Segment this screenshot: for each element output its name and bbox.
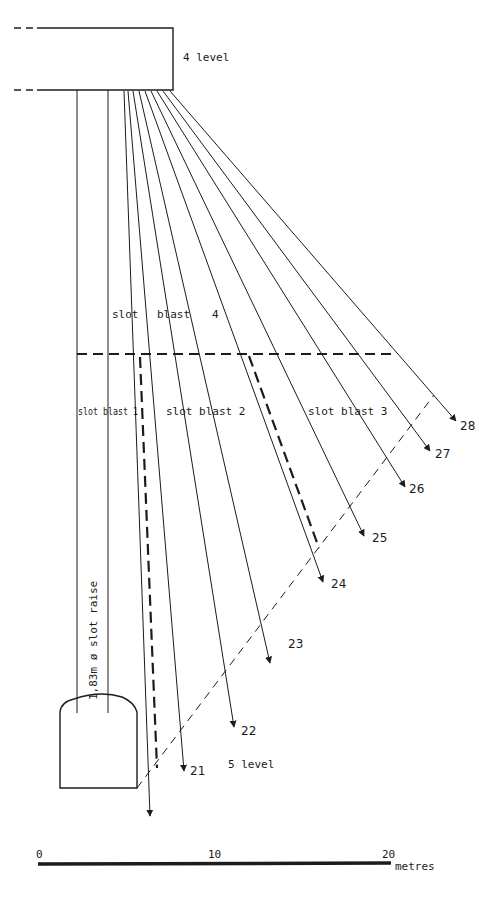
blast-hole-28 bbox=[170, 91, 456, 421]
slot-blast-4-label: slot blast 4 bbox=[112, 308, 219, 321]
blast-hole-fan bbox=[124, 91, 456, 816]
level-5-drift bbox=[60, 694, 137, 788]
level-5-label: 5 level bbox=[228, 758, 274, 771]
svg-text:slot: slot bbox=[112, 308, 139, 321]
blast-hole-26 bbox=[157, 91, 405, 487]
slot-raise-label: 1,83m ø slot raise bbox=[87, 581, 100, 700]
scale-tick-10: 10 bbox=[208, 848, 221, 861]
level-4-drift bbox=[14, 28, 173, 90]
slot-blast-1-label: slot blast 1 bbox=[78, 405, 138, 418]
hole-label-28: 28 bbox=[460, 419, 475, 433]
hole-label-25: 25 bbox=[372, 531, 387, 545]
blast-hole-23 bbox=[139, 91, 270, 663]
hole-label-24: 24 bbox=[331, 577, 346, 591]
slot-blast-2-boundary bbox=[249, 356, 319, 548]
scale-tick-0: 0 bbox=[36, 848, 43, 861]
slot-blast-1-boundary bbox=[140, 357, 157, 768]
blast-hole-27 bbox=[163, 91, 430, 451]
scale-bar: 0 10 20 metres bbox=[36, 848, 435, 873]
level-4-label: 4 level bbox=[183, 51, 229, 64]
hole-label-22: 22 bbox=[241, 724, 256, 738]
hole-label-27: 27 bbox=[435, 447, 450, 461]
hole-label-23: 23 bbox=[288, 637, 303, 651]
mining-diagram: 4 level 1,83m ø slot raise 5 level 21 22… bbox=[0, 0, 495, 897]
svg-text:4: 4 bbox=[212, 308, 219, 321]
slot-blast-2-label: slot blast 2 bbox=[166, 405, 245, 418]
svg-text:blast: blast bbox=[157, 308, 190, 321]
scale-tick-20: 20 bbox=[382, 848, 395, 861]
hole-label-26: 26 bbox=[409, 482, 424, 496]
scale-unit: metres bbox=[395, 860, 435, 873]
slot-blast-3-label: slot blast 3 bbox=[308, 405, 387, 418]
hole-label-21: 21 bbox=[190, 764, 205, 778]
